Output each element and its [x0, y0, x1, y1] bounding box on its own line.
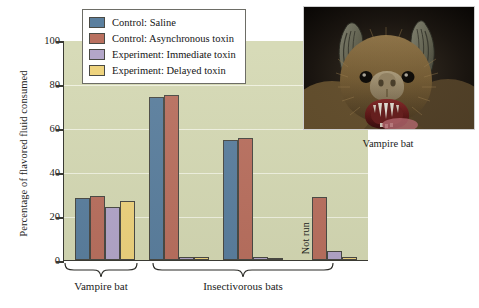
- bar-insect2-delayed-toxin: [268, 258, 283, 260]
- bar-insect2-immediate-toxin: [253, 257, 268, 260]
- y-tick-label-60: 60: [20, 123, 60, 134]
- bar-insect3-delayed-toxin: [342, 257, 357, 260]
- legend: Control: Saline Control: Asynchronous to…: [82, 9, 246, 84]
- bar-insect3-immediate-toxin: [327, 251, 342, 260]
- legend-swatch-icon-control-asynchronous-toxin: [89, 33, 105, 44]
- bar-vampire-delayed-toxin: [120, 201, 135, 260]
- legend-item-control-asynchronous-toxin[interactable]: Control: Asynchronous toxin: [89, 30, 236, 46]
- bar-insect1-immediate-toxin: [179, 257, 194, 260]
- legend-swatch-icon-experiment-delayed-toxin: [89, 65, 105, 76]
- bar-insect1-delayed-toxin: [194, 257, 209, 260]
- group-label-insectivorous-bats: Insectivorous bats: [178, 280, 308, 292]
- y-tick-label-100: 100: [20, 35, 60, 46]
- bar-insect2-saline: [223, 140, 238, 260]
- photo-caption: Vampire bat: [303, 138, 473, 149]
- bar-insect2-async-toxin: [238, 138, 253, 260]
- y-tick-label-80: 80: [20, 79, 60, 90]
- vampire-bat-photo: [303, 6, 475, 130]
- legend-item-control-saline[interactable]: Control: Saline: [89, 14, 236, 30]
- bar-vampire-async-toxin: [90, 196, 105, 260]
- y-tick-label-0: 0: [20, 255, 60, 266]
- legend-swatch-icon-experiment-immediate-toxin: [89, 49, 105, 60]
- legend-label-experiment-immediate-toxin: Experiment: Immediate toxin: [112, 49, 236, 60]
- legend-item-experiment-delayed-toxin[interactable]: Experiment: Delayed toxin: [89, 62, 236, 78]
- legend-label-control-saline: Control: Saline: [112, 17, 176, 28]
- legend-label-control-asynchronous-toxin: Control: Asynchronous toxin: [112, 33, 234, 44]
- gridline-40: [64, 173, 368, 174]
- bar-insect3-async-toxin: [312, 197, 327, 260]
- legend-label-experiment-delayed-toxin: Experiment: Delayed toxin: [112, 65, 226, 76]
- y-axis-title: Percentage of flavored fluid consumed: [18, 39, 29, 269]
- legend-item-experiment-immediate-toxin[interactable]: Experiment: Immediate toxin: [89, 46, 236, 62]
- y-tick-label-20: 20: [20, 211, 60, 222]
- y-tick-label-40: 40: [20, 167, 60, 178]
- legend-swatch-icon-control-saline: [89, 17, 105, 28]
- not-run-annotation: Not run: [300, 222, 311, 254]
- bar-insect1-saline: [149, 97, 164, 260]
- bar-insect1-async-toxin: [164, 95, 179, 260]
- figure-root: Percentage of flavored fluid consumed 10…: [0, 0, 479, 308]
- bar-vampire-saline: [75, 198, 90, 260]
- group-label-vampire-bat: Vampire bat: [40, 280, 162, 292]
- bar-vampire-immediate-toxin: [105, 207, 120, 260]
